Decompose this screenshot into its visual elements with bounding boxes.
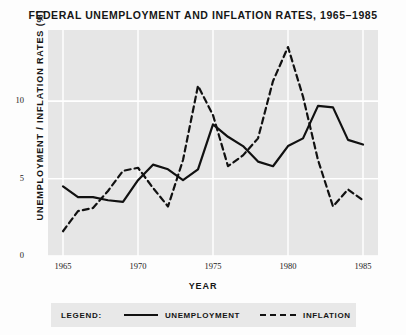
chart-figure: FEDERAL UNEMPLOYMENT AND INFLATION RATES… [0,0,406,335]
chart-legend: LEGEND: UNEMPLOYMENT INFLATION [51,303,356,327]
legend-entry-inflation: INFLATION [260,311,350,320]
legend-label-inflation: INFLATION [303,311,350,320]
data-series-layer [48,30,378,256]
x-tick-label: 1985 [343,261,383,271]
legend-title: LEGEND: [61,311,102,320]
legend-swatch-solid-icon [124,314,158,316]
x-tick-label: 1980 [268,261,308,271]
series-line-unemployment [63,106,363,202]
legend-entry-unemployment: UNEMPLOYMENT [124,311,240,320]
series-line-inflation [63,47,363,231]
legend-swatch-dashed-icon [260,314,296,316]
x-axis-label: YEAR [0,281,406,291]
y-axis-label: UNEMPLOYMENT / INFLATION RATES (%) [35,0,45,240]
x-tick-label: 1965 [43,261,83,271]
y-tick-label: 5 [0,173,24,183]
x-tick-label: 1970 [118,261,158,271]
page-title: FEDERAL UNEMPLOYMENT AND INFLATION RATES… [0,9,406,21]
x-tick-label: 1975 [193,261,233,271]
y-tick-label: 10 [0,95,24,105]
legend-label-unemployment: UNEMPLOYMENT [165,311,240,320]
y-tick-label: 0 [0,250,24,260]
plot-region [48,30,378,256]
